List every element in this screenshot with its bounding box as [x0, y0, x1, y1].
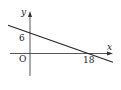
origin-label: O	[19, 55, 26, 64]
coordinate-plane	[0, 0, 121, 90]
x-axis-arrow-icon	[107, 52, 113, 56]
y-axis-label: y	[21, 8, 26, 17]
y-axis-arrow-icon	[28, 11, 32, 17]
x-axis-label: x	[107, 43, 112, 52]
y-intercept-label: 6	[19, 34, 25, 43]
x-intercept-label: 18	[83, 56, 94, 65]
